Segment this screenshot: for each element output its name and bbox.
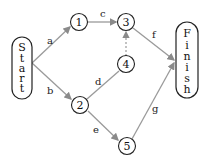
node-5: 5 <box>119 138 136 155</box>
edge-label-b: b <box>47 85 53 96</box>
edge-d <box>87 71 119 99</box>
edge-label-f: f <box>152 29 157 40</box>
node-4: 4 <box>118 56 135 73</box>
edge-label-c: c <box>100 8 106 19</box>
edge-label-g: g <box>152 103 159 114</box>
svg-text:4: 4 <box>123 58 130 71</box>
svg-text:5: 5 <box>124 140 131 153</box>
node-2: 2 <box>72 97 89 114</box>
node-3: 3 <box>118 14 135 31</box>
edge-label-a: a <box>47 35 53 46</box>
svg-text:t: t <box>20 82 25 95</box>
edge-g <box>132 63 174 139</box>
svg-text:3: 3 <box>123 16 130 29</box>
network-diagram: a b c d e f g S t a r t F i n i s h 1 2 … <box>0 0 205 165</box>
svg-text:1: 1 <box>76 16 83 29</box>
node-1: 1 <box>71 14 88 31</box>
edge-label-e: e <box>93 124 99 135</box>
finish-node: F i n i s h <box>176 22 198 98</box>
edge-label-d: d <box>95 76 102 87</box>
svg-text:2: 2 <box>77 99 84 112</box>
svg-text:h: h <box>183 83 190 96</box>
start-node: S t a r t <box>12 37 32 99</box>
